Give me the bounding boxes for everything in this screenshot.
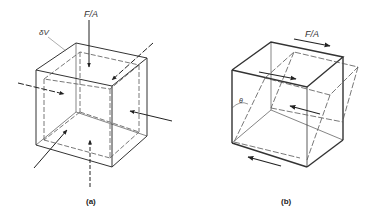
theta-label: θ: [239, 97, 243, 104]
arrow-bottom-force: [248, 157, 281, 166]
panel-a-hydrostatic-cube: F/A δV (a): [18, 9, 172, 206]
arrow-front-left: [34, 130, 67, 168]
caption-a: (a): [86, 197, 96, 206]
shear-arrows: [248, 39, 330, 166]
force-label-b: F/A: [305, 29, 319, 39]
arrow-left: [18, 83, 64, 94]
panel-b-shear-cube: F/A θ (b): [232, 29, 358, 206]
force-label-a: F/A: [84, 9, 98, 19]
caption-b: (b): [281, 197, 292, 206]
arrow-bottom-inner: [290, 106, 320, 114]
arrow-right: [130, 111, 172, 121]
volume-leader-line: [48, 37, 66, 51]
sheared-cube-dashed: [234, 52, 358, 160]
arrow-top-force: [294, 39, 330, 46]
figure-canvas: F/A δV (a): [0, 0, 375, 213]
volume-label: δV: [39, 28, 49, 37]
cube-outline: [36, 43, 147, 167]
